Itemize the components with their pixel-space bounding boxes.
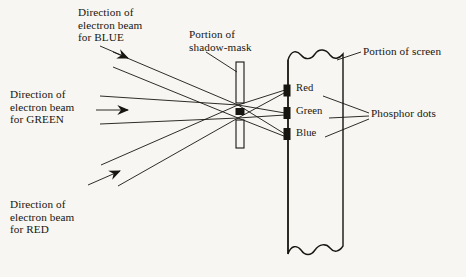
beam-bundle-red — [101, 90, 285, 186]
label-screen: Portion of screen — [363, 45, 441, 58]
label-beam-red: Direction of electron beam for RED — [10, 198, 74, 236]
label-phosphor-dots: Phosphor dots — [371, 107, 436, 120]
figure-canvas: Direction of electron beam for BLUE Dire… — [0, 0, 466, 277]
beam-bundle-blue — [113, 52, 285, 137]
leader-shadow-mask — [206, 52, 237, 72]
phosphor-dot-blue — [284, 128, 291, 140]
beam-arrow-red — [88, 171, 120, 185]
beam-arrow-blue — [100, 46, 128, 58]
phosphor-dot-green — [284, 107, 291, 119]
phosphor-dot-red — [284, 85, 291, 97]
label-beam-green: Direction of electron beam for GREEN — [10, 88, 74, 126]
label-shadow-mask: Portion of shadow-mask — [189, 28, 252, 53]
label-beam-blue: Direction of electron beam for BLUE — [78, 6, 142, 44]
screen — [288, 50, 343, 255]
label-dot-blue: Blue — [296, 127, 316, 139]
label-dot-green: Green — [296, 105, 322, 117]
label-dot-red: Red — [296, 82, 313, 94]
